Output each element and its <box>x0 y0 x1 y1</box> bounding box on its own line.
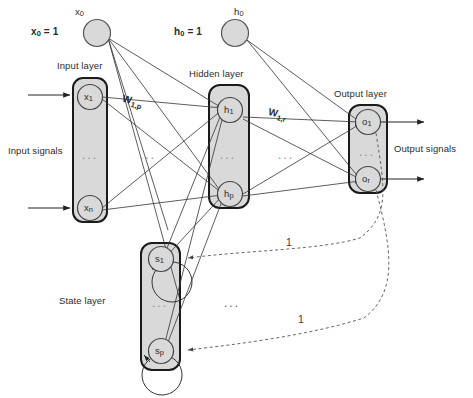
connections-input-hidden <box>102 97 222 210</box>
bias-label-h0: h0 <box>234 6 244 18</box>
ellipsis-hidden-layer: ... <box>220 148 236 162</box>
layer-title-state: State layer <box>59 295 106 306</box>
neuron-label-s1: s1 <box>155 253 164 265</box>
bias-equation-x0: x0 = 1 <box>31 26 58 38</box>
ellipsis-feedback-gap: ... <box>224 296 240 310</box>
neuron-label-xn: xn <box>84 202 93 214</box>
ellipsis-state-layer: ... <box>152 296 168 310</box>
neuron-label-x1: x1 <box>84 91 93 103</box>
neuron-label-h1: h1 <box>224 104 234 116</box>
ellipsis-input-hidden-gap: ... <box>140 148 156 162</box>
connections-hidden-output <box>243 117 360 196</box>
bias-equation-h0: h0 = 1 <box>174 26 202 38</box>
input-signals-label: Input signals <box>8 145 63 156</box>
connections-state-hidden <box>163 112 224 350</box>
neuron-label-o1: o1 <box>362 116 372 128</box>
neural-network-diagram: x1 xn h1 hp o1 or s1 sp x0 x0 = 1 h0 h0 … <box>0 0 473 398</box>
feedback-weight-label-bottom: 1 <box>298 313 304 325</box>
bias-node-h0 <box>222 20 249 47</box>
ellipsis-input-layer: ... <box>82 148 98 162</box>
feedback-weight-label-top: 1 <box>286 236 292 248</box>
neuron-label-or: or <box>362 173 370 185</box>
layer-title-input: Input layer <box>57 60 102 71</box>
bias-node-x0 <box>84 20 111 47</box>
output-signals-label: Output signals <box>394 143 456 154</box>
layer-title-hidden: Hidden layer <box>189 68 244 79</box>
neuron-label-sp: sp <box>155 345 164 357</box>
ellipsis-output-layer: ... <box>359 145 375 159</box>
layer-title-output: Output layer <box>334 88 387 99</box>
bias-label-x0: x0 <box>75 6 84 18</box>
neuron-label-hp: hp <box>224 188 234 200</box>
ellipsis-hidden-output-gap: ... <box>278 148 294 162</box>
